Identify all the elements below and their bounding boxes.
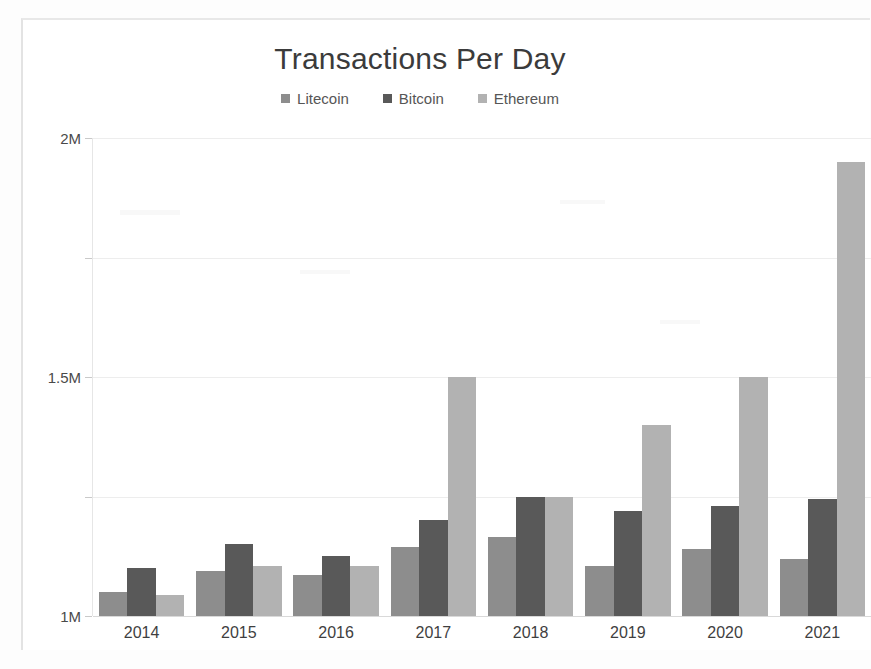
legend-swatch-litecoin: [281, 94, 290, 103]
bar-bitcoin-2015[interactable]: [225, 544, 254, 616]
legend-label-litecoin: Litecoin: [297, 90, 349, 107]
legend-label-bitcoin: Bitcoin: [399, 90, 444, 107]
bar-ethereum-2015[interactable]: [253, 566, 282, 616]
bar-bitcoin-2018[interactable]: [516, 497, 545, 617]
chart-title: Transactions Per Day: [0, 42, 840, 76]
bar-ethereum-2017[interactable]: [448, 377, 477, 616]
bar-litecoin-2018[interactable]: [488, 537, 517, 616]
y-axis-tick-mark: [85, 138, 92, 139]
bar-group: 2021: [780, 138, 866, 616]
plot-area: 0M0.5M1M1.5M2M 2014201520162017201820192…: [93, 138, 871, 616]
bar-group: 2018: [488, 138, 574, 616]
bar-group-bars: [780, 138, 866, 616]
y-axis-tick-mark: [85, 377, 92, 378]
bar-group-bars: [99, 138, 185, 616]
bar-group-bars: [196, 138, 282, 616]
bar-group-bars: [682, 138, 768, 616]
legend-swatch-ethereum: [478, 94, 487, 103]
y-axis-tick-mark: [85, 258, 92, 259]
bar-bitcoin-2014[interactable]: [127, 568, 156, 616]
legend-item-bitcoin[interactable]: Bitcoin: [383, 90, 444, 107]
bar-ethereum-2020[interactable]: [739, 377, 768, 616]
gridline: 0M: [93, 616, 871, 617]
x-axis-tick-label: 2019: [585, 624, 671, 642]
bar-ethereum-2014[interactable]: [156, 595, 185, 617]
bar-group-bars: [488, 138, 574, 616]
y-axis-tick-label: 1.5M: [48, 369, 81, 386]
bar-group-bars: [293, 138, 379, 616]
bar-litecoin-2016[interactable]: [293, 575, 322, 616]
y-axis-tick-mark: [85, 497, 92, 498]
bar-ethereum-2018[interactable]: [545, 497, 574, 617]
bar-litecoin-2019[interactable]: [585, 566, 614, 616]
bar-litecoin-2017[interactable]: [391, 547, 420, 616]
bar-group: 2019: [585, 138, 671, 616]
bar-bitcoin-2019[interactable]: [614, 511, 643, 616]
legend-item-litecoin[interactable]: Litecoin: [281, 90, 349, 107]
x-axis-tick-label: 2014: [99, 624, 185, 642]
bar-group: 2014: [99, 138, 185, 616]
bar-litecoin-2021[interactable]: [780, 559, 809, 616]
x-axis-tick-label: 2021: [780, 624, 866, 642]
chart: Transactions Per Day Litecoin Bitcoin Et…: [0, 0, 871, 669]
x-axis-tick-label: 2017: [391, 624, 477, 642]
x-axis-tick-label: 2016: [293, 624, 379, 642]
bar-group: 2017: [391, 138, 477, 616]
bar-ethereum-2021[interactable]: [837, 162, 866, 616]
y-axis-tick-mark: [85, 616, 92, 617]
chart-page: Transactions Per Day Litecoin Bitcoin Et…: [0, 0, 871, 669]
legend-label-ethereum: Ethereum: [494, 90, 559, 107]
x-axis-tick-label: 2020: [682, 624, 768, 642]
bar-ethereum-2019[interactable]: [642, 425, 671, 616]
bar-bitcoin-2020[interactable]: [711, 506, 740, 616]
y-axis-tick-label: 2M: [60, 130, 81, 147]
bar-litecoin-2015[interactable]: [196, 571, 225, 616]
x-axis-tick-label: 2018: [488, 624, 574, 642]
bar-ethereum-2016[interactable]: [350, 566, 379, 616]
bar-bitcoin-2016[interactable]: [322, 556, 351, 616]
bar-bitcoin-2021[interactable]: [808, 499, 837, 616]
chart-legend: Litecoin Bitcoin Ethereum: [0, 90, 840, 107]
bar-group: 2015: [196, 138, 282, 616]
legend-swatch-bitcoin: [383, 94, 392, 103]
y-axis-tick-label: 1M: [60, 608, 81, 625]
bar-litecoin-2014[interactable]: [99, 592, 128, 616]
bar-group: 2020: [682, 138, 768, 616]
legend-item-ethereum[interactable]: Ethereum: [478, 90, 559, 107]
bar-bitcoin-2017[interactable]: [419, 520, 448, 616]
bar-group-bars: [391, 138, 477, 616]
bar-group-bars: [585, 138, 671, 616]
x-axis-tick-label: 2015: [196, 624, 282, 642]
bar-litecoin-2020[interactable]: [682, 549, 711, 616]
bar-group: 2016: [293, 138, 379, 616]
